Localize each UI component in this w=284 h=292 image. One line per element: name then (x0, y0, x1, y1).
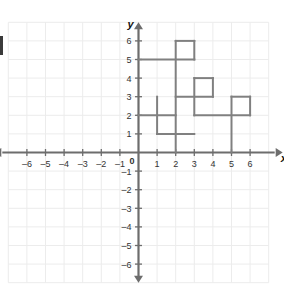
y-tick-label: –6 (121, 260, 131, 270)
y-axis-label: y (126, 18, 134, 30)
x-tick-label: 5 (229, 159, 234, 169)
y-tick-label: –1 (121, 167, 131, 177)
y-tick-label: –3 (121, 204, 131, 214)
x-tick-label: 6 (248, 159, 253, 169)
y-tick-label: –5 (121, 241, 131, 251)
y-tick-label: –4 (121, 222, 131, 232)
x-tick-label: 2 (173, 159, 178, 169)
y-tick-label: 1 (126, 129, 131, 139)
y-tick-label: 5 (126, 55, 131, 65)
x-tick-label: 1 (155, 159, 160, 169)
x-axis-arrow-left (0, 148, 1, 157)
x-tick-label: –6 (22, 159, 32, 169)
coordinate-plot: –6–5–4–3–2–1123456654321–1–2–3–4–5–60xy (0, 0, 284, 292)
x-tick-label: 3 (192, 159, 197, 169)
x-tick-label: 4 (210, 159, 215, 169)
x-tick-label: –2 (96, 159, 106, 169)
y-tick-label: 4 (126, 74, 131, 84)
x-tick-label: –4 (59, 159, 69, 169)
x-tick-label: –3 (78, 159, 88, 169)
y-tick-label: 2 (126, 111, 131, 121)
x-axis-label: x (280, 152, 284, 164)
y-tick-label: –2 (121, 185, 131, 195)
y-tick-label: 3 (126, 92, 131, 102)
y-tick-label: 6 (126, 36, 131, 46)
x-tick-label: –5 (40, 159, 50, 169)
coordinate-plane-figure: –6–5–4–3–2–1123456654321–1–2–3–4–5–60xy (0, 0, 284, 292)
origin-label: 0 (129, 156, 134, 166)
